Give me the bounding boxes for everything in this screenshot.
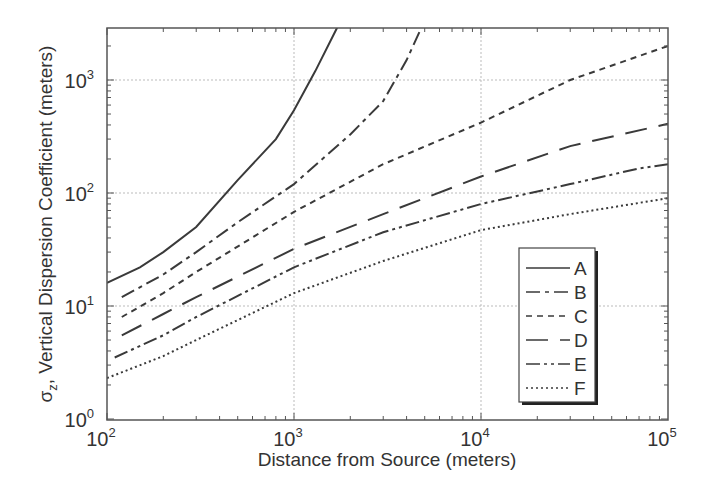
y-tick-labels: 100101102103 — [65, 67, 94, 431]
y-tick-label: 103 — [65, 67, 94, 92]
series-line-b — [122, 28, 422, 297]
x-tick-label: 105 — [647, 425, 676, 450]
x-tick-label: 104 — [460, 425, 489, 450]
y-axis-title: σz, Vertical Dispersion Coefficient (met… — [35, 46, 60, 403]
y-tick-label: 102 — [65, 180, 94, 205]
x-tick-label: 103 — [273, 425, 302, 450]
x-tick-label: 102 — [86, 425, 115, 450]
legend-label-e: E — [574, 354, 587, 375]
x-axis-title: Distance from Source (meters) — [258, 449, 517, 470]
series-line-a — [107, 28, 337, 283]
legend-label-a: A — [574, 258, 587, 279]
y-tick-label: 101 — [65, 293, 94, 318]
x-tick-labels: 102103104105 — [86, 425, 676, 450]
legend-label-f: F — [574, 378, 586, 399]
legend-label-d: D — [574, 330, 588, 351]
legend: ABCDEF — [519, 248, 598, 405]
dispersion-chart: 102103104105 100101102103 Distance from … — [0, 0, 708, 494]
legend-label-c: C — [574, 306, 588, 327]
legend-label-b: B — [574, 282, 587, 303]
